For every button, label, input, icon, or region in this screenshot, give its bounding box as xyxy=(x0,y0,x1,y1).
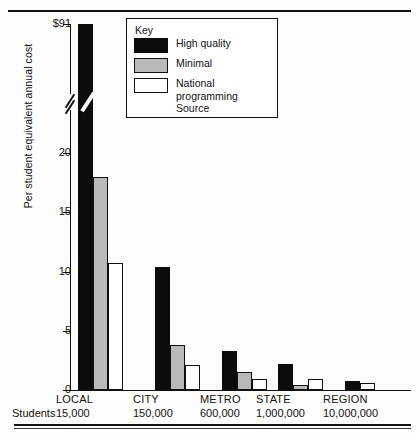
legend-box: Key High qualityMinimalNational programm… xyxy=(126,18,278,118)
bar-local-min xyxy=(93,177,108,390)
bar-group xyxy=(78,24,123,390)
legend-swatch-nat xyxy=(134,78,168,93)
bar-city-min xyxy=(170,345,185,390)
bar-metro-min xyxy=(237,372,252,390)
bottom-rule-thin xyxy=(14,428,411,429)
legend-swatch-hq xyxy=(134,38,168,53)
bar-city-nat xyxy=(185,365,200,390)
y-axis-title: Per student equivalent annual cost xyxy=(22,36,34,216)
bar-group xyxy=(222,351,267,390)
category-label-region: REGION10,000,000 xyxy=(323,393,413,420)
bar-local-hq xyxy=(78,24,93,390)
legend-label: National programming Source xyxy=(176,77,270,115)
bar-region-nat xyxy=(360,383,375,390)
legend-label: High quality xyxy=(176,37,231,50)
bar-metro-nat xyxy=(252,379,267,390)
x-axis-baseline xyxy=(70,390,411,391)
bar-group xyxy=(155,267,200,390)
bar-state-min xyxy=(293,385,308,390)
category-labels: LOCAL15,000CITY150,000METRO600,000STATE1… xyxy=(0,393,419,437)
legend-label: Minimal xyxy=(176,57,212,70)
chart-figure: Per student equivalent annual cost $9120… xyxy=(0,0,419,437)
legend-title: Key xyxy=(135,24,270,36)
bottom-rule-thick xyxy=(14,424,411,426)
legend-items: High qualityMinimalNational programming … xyxy=(134,37,270,115)
category-student-count: 10,000,000 xyxy=(323,407,413,421)
bar-group xyxy=(345,381,375,390)
legend-item: Minimal xyxy=(134,57,270,73)
bar-region-hq xyxy=(345,381,360,390)
bar-city-hq xyxy=(155,267,170,390)
bar-group xyxy=(278,364,323,390)
top-rule xyxy=(8,10,411,12)
bar-metro-hq xyxy=(222,351,237,390)
bar-state-nat xyxy=(308,379,323,390)
legend-item: National programming Source xyxy=(134,77,270,115)
bar-local-nat xyxy=(108,263,123,390)
students-row-label: Students xyxy=(12,407,55,419)
legend-item: High quality xyxy=(134,37,270,53)
legend-swatch-min xyxy=(134,58,168,73)
bar-state-hq xyxy=(278,364,293,390)
category-name: REGION xyxy=(323,393,413,407)
